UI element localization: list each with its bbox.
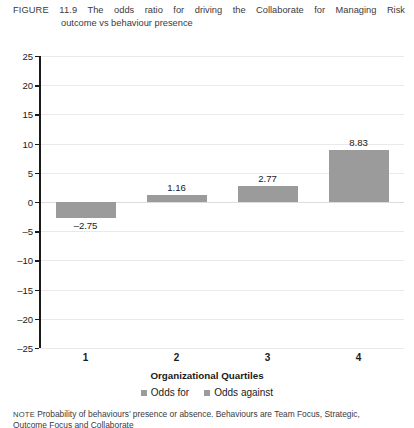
legend-label-odds-against: Odds against (214, 387, 273, 398)
legend-label-odds-for: Odds for (151, 387, 189, 398)
bar-chart: 2520151050–5–10–15–20–25 –2.751.162.778.… (0, 50, 414, 360)
figure-label: FIGURE 11.9 (13, 5, 77, 15)
gridline (40, 56, 404, 57)
gridline (40, 85, 404, 86)
y-axis-tick-label: –25 (0, 343, 33, 354)
x-axis-tick-label: 3 (265, 352, 271, 363)
gridline (40, 260, 404, 261)
figure-note: NOTE Probability of behaviours’ presence… (13, 409, 405, 428)
y-axis-tick-label: 25 (0, 51, 33, 62)
legend-item-odds-for: Odds for (141, 387, 189, 398)
note-text-line-1: Probability of behaviours’ presence or a… (37, 409, 360, 419)
figure-caption-line-2: outcome vs behaviour presence (13, 17, 405, 30)
x-axis-tick-label: 1 (83, 352, 89, 363)
y-axis-tick-label: –5 (0, 226, 33, 237)
y-axis-tick-label: 5 (0, 167, 33, 178)
y-axis-tick-mark (35, 144, 39, 145)
gridline (40, 290, 404, 291)
figure-caption: FIGURE 11.9 The odds ratio for driving t… (13, 4, 405, 30)
y-axis-line (39, 56, 41, 348)
y-axis-tick-mark (35, 260, 39, 261)
gridline (40, 231, 404, 232)
bar-value-label: 1.16 (167, 182, 185, 193)
y-axis-tick-label: 15 (0, 109, 33, 120)
y-axis-tick-label: 0 (0, 197, 33, 208)
bar (56, 202, 116, 218)
bar (238, 186, 298, 202)
x-axis-title: Organizational Quartiles (0, 370, 414, 381)
bar-value-label: 2.77 (258, 173, 276, 184)
y-axis-tick-mark (35, 56, 39, 57)
bar-value-label: 8.83 (349, 137, 367, 148)
legend-swatch-icon (141, 390, 147, 396)
y-axis-tick-label: 20 (0, 80, 33, 91)
gridline (40, 114, 404, 115)
y-axis-tick-label: –15 (0, 284, 33, 295)
y-axis-tick-mark (35, 231, 39, 232)
y-axis-tick-mark (35, 202, 39, 203)
y-axis-tick-mark (35, 85, 39, 86)
y-axis-tick-mark (35, 290, 39, 291)
chart-legend: Odds for Odds against (0, 387, 414, 398)
note-text-line-2: Outcome Focus and Collaborate (13, 420, 405, 428)
y-axis-tick-label: –10 (0, 255, 33, 266)
gridline (40, 348, 404, 349)
figure-caption-line-1: FIGURE 11.9 The odds ratio for driving t… (13, 4, 405, 17)
bar (147, 195, 207, 202)
y-axis-tick-mark (35, 319, 39, 320)
x-axis-tick-label: 4 (356, 352, 362, 363)
y-axis-tick-label: –20 (0, 313, 33, 324)
legend-item-odds-against: Odds against (204, 387, 273, 398)
y-axis-tick-mark (35, 173, 39, 174)
bar (329, 150, 389, 202)
figure-caption-text-1: The odds ratio for driving the Collabora… (88, 5, 405, 15)
x-axis-tick-label: 2 (174, 352, 180, 363)
gridline (40, 319, 404, 320)
note-label: NOTE (13, 410, 35, 419)
y-axis-tick-label: 10 (0, 138, 33, 149)
legend-swatch-icon (204, 390, 210, 396)
y-axis-tick-mark (35, 114, 39, 115)
y-axis-tick-mark (35, 348, 39, 349)
bar-value-label: –2.75 (74, 220, 98, 231)
